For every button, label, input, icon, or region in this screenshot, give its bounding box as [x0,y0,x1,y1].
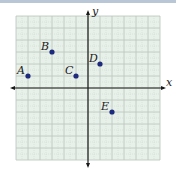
point-a [25,73,30,78]
y-axis-down-arrow-icon [86,163,90,168]
point-label-c: C [65,64,74,77]
point-d [97,61,102,66]
point-e [109,109,114,114]
point-label-b: B [40,40,49,53]
point-c [73,73,78,78]
coordinate-plane: y x ABCDE [0,0,176,178]
point-label-e: E [100,100,109,113]
point-label-a: A [16,64,25,77]
y-axis-label: y [91,5,99,18]
x-axis-label: x [166,76,173,89]
x-axis-left-arrow-icon [10,86,15,90]
point-label-d: D [88,52,98,65]
y-axis-up-arrow-icon [86,10,90,15]
point-b [49,49,54,54]
